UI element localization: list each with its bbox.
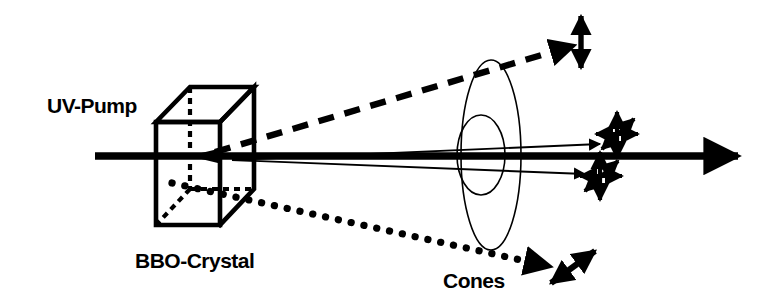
vertical-polarized-signal-ray (215, 46, 572, 152)
bbo-crystal-label: BBO-Crystal (135, 249, 254, 272)
uv-pump-label: UV-Pump (47, 94, 137, 117)
diagonal-polarization-arrow (551, 251, 595, 283)
cones-label: Cones (443, 269, 505, 292)
lower-correlated-photon-ray (232, 160, 585, 174)
uv-pump-beam-axis (95, 148, 738, 164)
superposition-polarization-star-upper (596, 112, 638, 158)
diagram-canvas: UV-Pump BBO-Crystal Cones (0, 0, 763, 305)
spdc-diagram: UV-Pump BBO-Crystal Cones (0, 0, 763, 305)
